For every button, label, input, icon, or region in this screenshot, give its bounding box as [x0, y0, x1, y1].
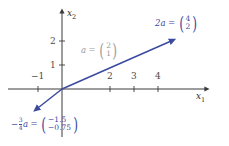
annotation-two-a-component-2: 2	[186, 23, 191, 31]
y-tick-label-2: 2	[50, 37, 56, 46]
vector-plot-figure: x1 x2 −1 2 3 4 1 2 2a = ( 4 2 ) a = ( 2 …	[0, 0, 229, 146]
annotation-a-equals: =	[89, 45, 96, 55]
left-paren-icon: (	[100, 43, 105, 59]
fraction-three-fourths: 34	[19, 117, 23, 131]
x-tick-label-neg1: −1	[31, 72, 44, 81]
left-paren-icon: (	[41, 117, 46, 133]
annotation-neg-equals: =	[31, 119, 38, 129]
annotation-neg-vector: ( −1.5 −0.75 )	[40, 116, 79, 133]
vector-line-negative	[39, 89, 63, 108]
fraction-denominator: 4	[19, 124, 23, 132]
annotation-a-symbol: a	[81, 45, 86, 55]
annotation-two-a-vector: ( 4 2 )	[178, 15, 199, 32]
x-axis-label: x1	[196, 92, 205, 103]
x-tick-label-2: 2	[107, 72, 113, 81]
x-tick-label-4: 4	[155, 72, 161, 81]
right-paren-icon: )	[73, 117, 78, 133]
annotation-neg-component-2: −0.75	[48, 124, 71, 132]
x-tick-label-3: 3	[131, 72, 137, 81]
annotation-neg-coefficient: −34a	[11, 117, 28, 131]
annotation-neg-three-quarter-a: −34a = ( −1.5 −0.75 )	[11, 116, 79, 133]
annotation-a-vector: ( 2 1 )	[98, 42, 119, 59]
annotation-two-a: 2a = ( 4 2 )	[155, 15, 198, 32]
y-axis-label: x2	[67, 9, 76, 20]
annotation-two-a-coefficient: 2a	[155, 18, 166, 28]
annotation-neg-symbol: a	[23, 119, 28, 129]
y-tick-label-1: 1	[50, 61, 56, 70]
right-paren-icon: )	[113, 43, 118, 59]
left-paren-icon: (	[179, 16, 184, 32]
right-paren-icon: )	[192, 16, 197, 32]
annotation-a-component-2: 1	[106, 50, 111, 58]
annotation-two-a-equals: =	[168, 18, 175, 28]
annotation-neg-sign: −	[11, 119, 18, 129]
annotation-a: a = ( 2 1 )	[81, 42, 119, 59]
